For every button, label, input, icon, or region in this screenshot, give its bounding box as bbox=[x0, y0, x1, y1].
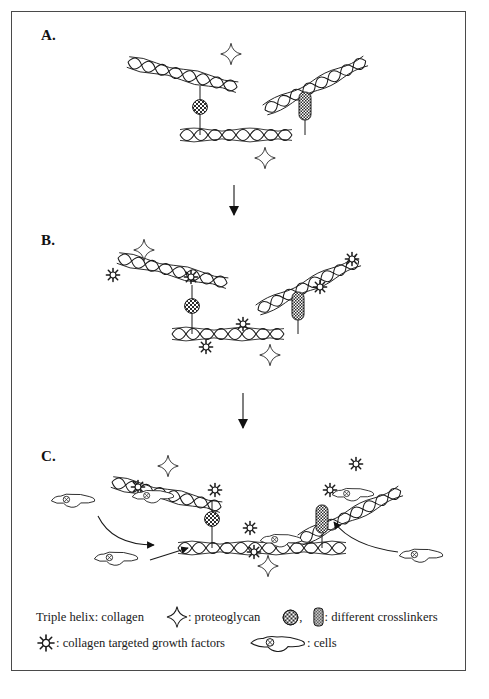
growth-factor-icon bbox=[345, 252, 358, 265]
crosslinker-bar-icon bbox=[292, 292, 304, 320]
legend-collagen-label: Triple helix: collagen bbox=[36, 611, 144, 624]
legend-crosslinker-separator: , bbox=[299, 611, 302, 624]
legend-crosslinkers-label: : different crosslinkers bbox=[325, 611, 438, 624]
collagen-triple-helix bbox=[126, 55, 238, 94]
collagen-triple-helix bbox=[262, 55, 369, 117]
legend-row-1: Triple helix: collagen : proteoglycan , … bbox=[36, 604, 456, 630]
collagen-triple-helix bbox=[172, 327, 284, 341]
growth-factor-icon bbox=[199, 340, 212, 353]
panel-c-diagram bbox=[51, 455, 442, 576]
growth-factor-icon bbox=[36, 633, 56, 653]
collagen-triple-helix bbox=[116, 251, 228, 290]
growth-factor-icon bbox=[243, 521, 256, 534]
growth-factor-icon bbox=[184, 270, 197, 283]
cell-icon bbox=[332, 488, 373, 501]
crosslinker-round-icon bbox=[282, 609, 299, 626]
legend-proteoglycan-label: : proteoglycan bbox=[188, 611, 260, 624]
collagen-triple-helix bbox=[180, 128, 292, 142]
panel-label-a: A. bbox=[41, 27, 56, 44]
growth-factor-icon bbox=[247, 545, 260, 558]
cell-icon bbox=[51, 494, 94, 507]
panel-a-diagram bbox=[126, 43, 368, 168]
proteoglycan-star-icon bbox=[166, 605, 188, 629]
panel-label-b: B. bbox=[41, 232, 55, 249]
crosslinker-bar-icon bbox=[316, 505, 328, 533]
crosslinker-bar-icon bbox=[312, 607, 325, 627]
crosslinker-round-icon bbox=[185, 299, 200, 314]
proteoglycan-star-icon bbox=[255, 147, 276, 168]
cell-icon bbox=[247, 632, 307, 654]
legend-row-2: : collagen targeted growth factors : cel… bbox=[36, 630, 456, 656]
crosslinker-round-icon bbox=[193, 100, 208, 115]
growth-factor-icon bbox=[106, 268, 119, 281]
panel-label-c: C. bbox=[41, 448, 56, 465]
proteoglycan-star-icon bbox=[221, 43, 242, 64]
panel-b-diagram bbox=[106, 239, 361, 365]
figure-canvas bbox=[0, 0, 489, 699]
cell-migration-arrow bbox=[98, 516, 154, 545]
crosslinker-bar-icon bbox=[299, 92, 311, 120]
cell-icon bbox=[260, 534, 301, 547]
collagen-triple-helix bbox=[255, 255, 362, 317]
proteoglycan-star-icon bbox=[158, 455, 179, 476]
proteoglycan-star-icon bbox=[258, 555, 279, 576]
proteoglycan-star-icon bbox=[260, 344, 281, 365]
growth-factor-icon bbox=[208, 483, 221, 496]
growth-factor-icon bbox=[349, 457, 362, 470]
legend-growth-factor-label: : collagen targeted growth factors bbox=[56, 637, 225, 650]
crosslinker-round-icon bbox=[205, 512, 220, 527]
growth-factor-icon bbox=[236, 317, 249, 330]
figure-legend: Triple helix: collagen : proteoglycan , … bbox=[36, 604, 456, 656]
cell-icon bbox=[399, 549, 442, 562]
legend-cells-label: : cells bbox=[307, 637, 337, 650]
cell-migration-arrow bbox=[334, 522, 398, 552]
growth-factor-icon bbox=[313, 280, 326, 293]
figure-root: A. B. C. Triple helix: collagen : proteo… bbox=[0, 0, 489, 699]
cell-icon bbox=[94, 552, 137, 565]
